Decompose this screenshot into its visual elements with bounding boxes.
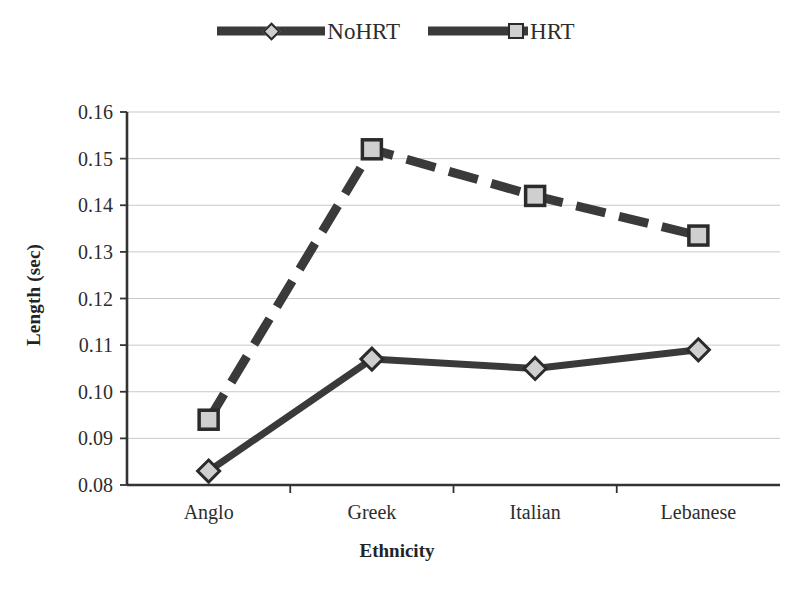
y-tick-label: 0.12 — [47, 287, 113, 310]
y-axis-title-text: Length (sec) — [23, 244, 45, 346]
y-axis-title: Length (sec) — [16, 185, 52, 405]
y-tick-label: 0.10 — [47, 380, 113, 403]
figure: NoHRT HRT 0.080.090.100.110.120.130.140.… — [0, 0, 794, 595]
y-tick-label: 0.11 — [47, 334, 113, 357]
y-tick-label: 0.09 — [47, 427, 113, 450]
y-tick-label: 0.13 — [47, 240, 113, 263]
page-edge-artifact — [0, 589, 794, 595]
series-hrt — [209, 149, 699, 419]
y-tick-label: 0.08 — [47, 474, 113, 497]
y-tick-label: 0.16 — [47, 101, 113, 124]
y-tick-label: 0.14 — [47, 194, 113, 217]
x-axis-title: Ethnicity — [0, 540, 794, 562]
gridlines — [127, 112, 780, 438]
x-tick-label: Anglo — [184, 501, 234, 524]
markers-hrt — [199, 140, 708, 429]
plot-area: 0.080.090.100.110.120.130.140.150.16 Ang… — [0, 0, 794, 595]
x-tick-label: Italian — [510, 501, 561, 524]
series-nohrt — [209, 350, 699, 471]
x-tick-label: Lebanese — [661, 501, 737, 524]
y-tick-label: 0.15 — [47, 147, 113, 170]
x-tick-label: Greek — [347, 501, 396, 524]
